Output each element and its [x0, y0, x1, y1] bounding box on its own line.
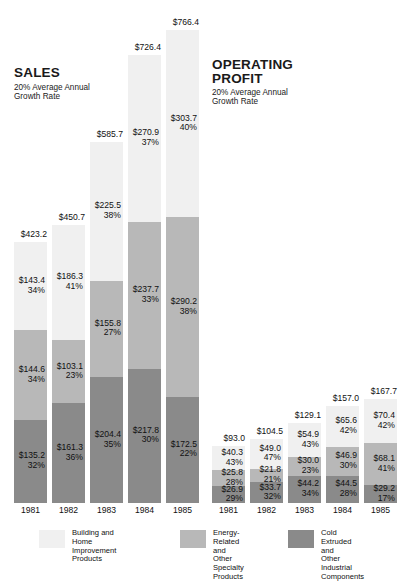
segment-label-operating-profit-1984-industrial: $44.5 28%	[335, 479, 357, 498]
segment-label-operating-profit-1985-energy: $68.1 41%	[373, 454, 395, 473]
segment-label-sales-1981-building: $143.4 34%	[19, 276, 45, 295]
segment-label-sales-1984-building: $270.9 37%	[133, 128, 159, 147]
bar-total-label-operating-profit-1983: $129.1	[284, 411, 321, 421]
x-axis-tick-operating-profit-1984: 1984	[326, 505, 359, 515]
legend-label-2: Cold Extruded and Other Industrial Compo…	[321, 529, 364, 582]
segment-label-sales-1985-energy: $290.2 38%	[171, 297, 197, 316]
x-axis-tick-operating-profit-1981: 1981	[212, 505, 245, 515]
x-axis-tick-sales-1981: 1981	[14, 505, 47, 515]
bar-operating-profit-1984[interactable]: $65.6 42%$46.9 30%$44.5 28%	[326, 406, 359, 503]
segment-label-sales-1983-building: $225.5 38%	[95, 201, 121, 220]
segment-label-operating-profit-1982-industrial: $33.7 32%	[259, 483, 281, 502]
x-axis-tick-sales-1982: 1982	[52, 505, 85, 515]
bar-total-label-sales-1982: $450.7	[48, 213, 85, 223]
segment-label-sales-1982-energy: $103.1 23%	[57, 362, 83, 381]
chart-legend: Building and Home Improvement ProductsEn…	[0, 529, 406, 567]
legend-swatch-0	[39, 530, 65, 548]
segment-label-sales-1985-building: $303.7 40%	[171, 114, 197, 133]
bar-sales-1982[interactable]: $186.3 41%$103.1 23%$161.3 36%	[52, 225, 85, 503]
panel-heading-operating-profit-title: OPERATING PROFIT	[212, 58, 293, 85]
segment-label-operating-profit-1985-building: $70.4 42%	[373, 411, 395, 430]
bar-total-label-sales-1985: $766.4	[162, 18, 199, 28]
segment-label-operating-profit-1985-industrial: $29.2 17%	[373, 484, 395, 503]
x-axis-tick-sales-1983: 1983	[90, 505, 123, 515]
segment-label-operating-profit-1983-energy: $30.0 23%	[297, 456, 319, 475]
segment-label-sales-1982-building: $186.3 41%	[57, 272, 83, 291]
legend-label-0: Building and Home Improvement Products	[72, 529, 116, 564]
x-axis-tick-sales-1984: 1984	[128, 505, 161, 515]
segment-label-sales-1983-energy: $155.8 27%	[95, 319, 121, 338]
bar-sales-1984[interactable]: $270.9 37%$237.7 33%$217.8 30%	[128, 55, 161, 503]
bar-sales-1985[interactable]: $303.7 40%$290.2 38%$172.5 22%	[166, 30, 199, 503]
segment-label-operating-profit-1981-industrial: $26.9 29%	[221, 485, 243, 504]
legend-swatch-1	[180, 530, 206, 548]
segment-label-operating-profit-1984-building: $65.6 42%	[335, 416, 357, 435]
segment-label-sales-1984-industrial: $217.8 30%	[133, 426, 159, 445]
x-axis-tick-operating-profit-1983: 1983	[288, 505, 321, 515]
bar-operating-profit-1983[interactable]: $54.9 43%$30.0 23%$44.2 34%	[288, 423, 321, 503]
x-axis-tick-operating-profit-1985: 1985	[364, 505, 397, 515]
legend-label-1: Energy-Related and Other Specialty Produ…	[213, 529, 244, 582]
bar-total-label-operating-profit-1985: $167.7	[360, 387, 397, 397]
bar-sales-1981[interactable]: $143.4 34%$144.6 34%$135.2 32%	[14, 242, 47, 503]
panel-heading-sales: SALES 20% Average Annual Growth Rate	[14, 66, 90, 101]
bar-operating-profit-1985[interactable]: $70.4 42%$68.1 41%$29.2 17%	[364, 399, 397, 503]
x-axis-tick-sales-1985: 1985	[166, 505, 199, 515]
bar-total-label-operating-profit-1982: $104.5	[246, 427, 283, 437]
segment-label-operating-profit-1984-energy: $46.9 30%	[335, 451, 357, 470]
bar-operating-profit-1981[interactable]: $40.3 43%$25.8 28%$26.9 29%	[212, 446, 245, 503]
panel-heading-operating-profit-subtitle: 20% Average Annual Growth Rate	[212, 88, 293, 107]
bar-operating-profit-1982[interactable]: $49.0 47%$21.8 21%$33.7 32%	[250, 439, 283, 503]
bar-sales-1983[interactable]: $225.5 38%$155.8 27%$204.4 35%	[90, 142, 123, 503]
bar-total-label-sales-1984: $726.4	[124, 43, 161, 53]
segment-label-sales-1984-energy: $237.7 33%	[133, 285, 159, 304]
segment-label-sales-1982-industrial: $161.3 36%	[57, 443, 83, 462]
segment-label-sales-1981-energy: $144.6 34%	[19, 365, 45, 384]
segment-label-operating-profit-1981-building: $40.3 43%	[221, 448, 243, 467]
bar-total-label-operating-profit-1981: $93.0	[208, 434, 245, 444]
panel-heading-sales-subtitle: 20% Average Annual Growth Rate	[14, 83, 90, 102]
segment-label-operating-profit-1983-building: $54.9 43%	[297, 430, 319, 449]
bar-total-label-sales-1981: $423.2	[10, 230, 47, 240]
segment-label-operating-profit-1983-industrial: $44.2 34%	[297, 479, 319, 498]
x-axis-tick-operating-profit-1982: 1982	[250, 505, 283, 515]
panel-heading-operating-profit: OPERATING PROFIT 20% Average Annual Grow…	[212, 58, 293, 107]
segment-label-operating-profit-1982-building: $49.0 47%	[259, 444, 281, 463]
panel-heading-sales-title: SALES	[14, 66, 90, 80]
segment-label-sales-1985-industrial: $172.5 22%	[171, 440, 197, 459]
bar-total-label-sales-1983: $585.7	[86, 130, 123, 140]
segment-label-sales-1981-industrial: $135.2 32%	[19, 451, 45, 470]
legend-swatch-2	[288, 530, 314, 548]
bar-total-label-operating-profit-1984: $157.0	[322, 394, 359, 404]
segment-label-sales-1983-industrial: $204.4 35%	[95, 430, 121, 449]
